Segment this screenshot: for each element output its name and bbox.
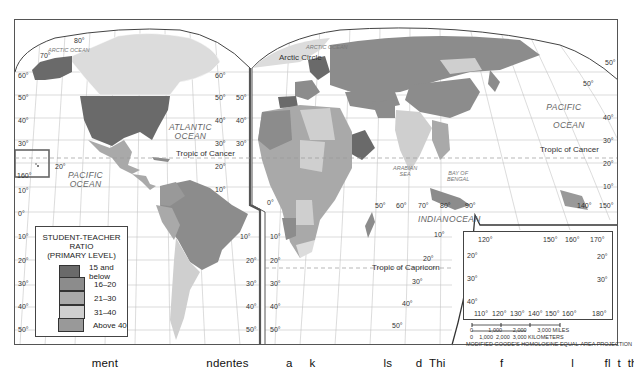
legend-title: STUDENT-TEACHER RATIO (PRIMARY LEVEL) [36,233,127,260]
lon-label: 150° [543,236,557,243]
lon-label: 140° [577,202,591,209]
projection-note: MODIFIED GOODE'S HOMOLOSINE EQUAL-AREA P… [466,341,632,347]
lat-label: 50° [583,80,594,87]
lat-label: 20° [215,163,226,170]
lon-label: 180° [592,310,606,317]
legend-swatch [58,318,84,332]
lat-label: 50° [246,326,257,333]
lat-label: 60° [215,72,226,79]
lat-label: 40° [215,117,226,124]
lat-label: 10° [215,186,226,193]
lon-label: 70° [418,202,429,209]
lat-label: 70° [40,52,51,59]
lon-label: 160° [17,172,31,179]
scale-km: 0 1,000 2,000 3,000 KILOMETERS [470,334,564,340]
choropleth-map: ARCTIC OCEAN ARCTIC OCEAN ATLANTICOCEAN … [0,0,634,368]
lat-label: 10° [18,233,29,240]
lat-label: 50° [605,59,616,66]
label-indian-ocean: OCEAN [449,215,481,224]
lon-label: 60° [396,202,407,209]
lat-label: 20° [55,163,66,170]
lon-label: 50° [375,202,386,209]
lat-label: 50° [392,322,403,329]
lon-label: 140° [528,310,542,317]
lat-label: 30° [467,275,478,282]
lat-label: 30° [412,278,423,285]
lat-label: 30° [236,140,247,147]
lat-label: 30° [597,276,608,283]
label-tropic-cancer-right: Tropic of Cancer [540,145,599,154]
legend-item: 21–30 [59,291,116,305]
lon-label: 170° [590,236,604,243]
lat-label: 40° [603,114,614,121]
label-arctic-ocean-right: ARCTIC OCEAN [306,44,348,50]
lat-label: 40° [270,303,281,310]
lat-label: 40° [467,298,478,305]
lat-label: 40° [18,303,29,310]
label-arctic-ocean-left: ARCTIC OCEAN [48,47,90,53]
lat-label: 20° [246,257,257,264]
lat-label: 50° [18,326,29,333]
lon-label: 160° [565,236,579,243]
legend-item: 16–20 [59,277,116,291]
legend-swatch [59,305,85,319]
lat-label: 50° [270,326,281,333]
lat-label: 10° [240,233,251,240]
lat-label: 10° [270,233,281,240]
label-arctic-circle: Arctic Circle [279,53,322,62]
legend-item: Above 40 [58,318,127,332]
lon-label: 120° [492,310,506,317]
legend-swatch [59,291,85,305]
lat-label: 20° [597,253,608,260]
lat-label: 50° [236,94,247,101]
lat-label: 50° [215,94,226,101]
legend-swatch [59,277,85,291]
lat-label: 30° [18,280,29,287]
lon-label: 120° [478,236,492,243]
lat-label: 20° [270,257,281,264]
lat-label: 10° [603,183,614,190]
label-bay-of-bengal: BAY OFBENGAL [447,170,469,182]
lon-label: 90° [465,202,476,209]
lat-label: 40° [236,117,247,124]
lat-label: 30° [270,280,281,287]
lon-label: 150° [599,202,613,209]
lat-label: 20° [423,255,434,262]
lat-label: 30° [246,280,257,287]
label-indian: INDIAN [418,215,449,224]
lat-label: 0° [18,210,25,217]
lon-label: 150° [545,310,559,317]
lon-label: 130° [510,310,524,317]
lat-label: 10° [434,231,445,238]
lon-label: 110° [474,310,488,317]
lat-label: 80° [74,37,85,44]
lat-label: 20° [603,160,614,167]
lat-label: 30° [18,140,29,147]
australia-inset-frame [463,231,613,320]
label-pacific-right: PACIFICOCEAN [543,103,585,130]
lon-label: 0° [267,199,274,206]
figure-caption-cut-off: ment ndentes a k ls d Thi f l fl t th li… [0,353,634,368]
lat-label: 40° [402,300,413,307]
lat-label: 30° [603,137,614,144]
lon-label: 160° [562,310,576,317]
label-arabian-sea: ARABIANSEA [393,165,417,177]
lat-label: 20° [467,252,478,259]
legend-item: 31–40 [59,305,116,319]
label-tropic-capricorn: Tropic of Capricorn [372,263,440,272]
label-atlantic: ATLANTICOCEAN [169,123,212,141]
lat-label: 30° [215,140,226,147]
lat-label: 40° [18,117,29,124]
lat-label: 10° [18,187,29,194]
lat-label: 50° [18,94,29,101]
label-tropic-cancer-left: Tropic of Cancer [176,149,235,158]
lat-label: 20° [18,257,29,264]
label-pacific-left: PACIFICOCEAN [68,171,103,189]
scale-miles: 0 1,000 2,000 3,000 MILES [470,327,569,333]
lon-label: 80° [440,202,451,209]
lat-label: 60° [18,72,29,79]
lat-label: 40° [246,303,257,310]
